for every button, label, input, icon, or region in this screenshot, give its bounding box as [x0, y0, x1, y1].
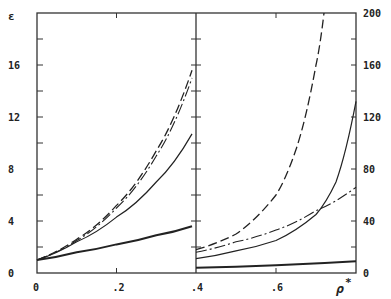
- y-tick-label-left: 0: [8, 268, 14, 279]
- y-axis-label: ε: [8, 10, 15, 23]
- y-tick-label-right: 160: [363, 60, 381, 71]
- curve-solid-thin: [196, 101, 356, 258]
- x-tick-label: .6: [271, 282, 283, 293]
- y-tick-label-left: 16: [8, 60, 20, 71]
- curve-long-dash: [37, 70, 192, 260]
- x-axis-label-star: *: [345, 276, 352, 289]
- y-tick-label-right: 40: [363, 216, 375, 227]
- y-tick-label-left: 8: [8, 164, 14, 175]
- curve-solid-thick: [37, 226, 192, 260]
- chart: 0481216ε040801201602000.2.4.6ρ*: [0, 0, 391, 299]
- y-tick-label-right: 0: [363, 268, 369, 279]
- curve-solid-thick: [196, 261, 356, 268]
- y-tick-label-right: 120: [363, 112, 381, 123]
- x-tick-label: .2: [113, 282, 125, 293]
- y-tick-label-left: 12: [8, 112, 20, 123]
- y-tick-label-left: 4: [8, 216, 14, 227]
- y-tick-label-right: 200: [363, 8, 381, 19]
- x-axis-label: ρ: [335, 281, 344, 296]
- curve-dash-dot: [196, 187, 356, 252]
- x-tick-label: .4: [191, 282, 203, 293]
- x-tick-label: 0: [33, 282, 39, 293]
- curve-solid-thin: [37, 134, 192, 260]
- curve-long-dash: [196, 13, 324, 250]
- y-tick-label-right: 80: [363, 164, 375, 175]
